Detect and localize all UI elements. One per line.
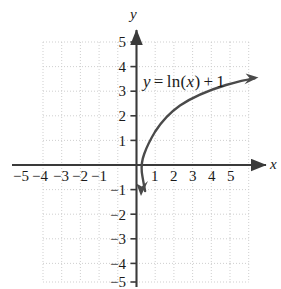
y-tick-label--1: −1 — [104, 183, 126, 198]
x-tick-label-1: 1 — [151, 169, 159, 184]
graph-figure: −5 −4 −3 −2 −1 1 2 3 4 5 5 4 3 2 1 −1 −2… — [0, 0, 281, 289]
y-tick-label-1: 1 — [108, 134, 126, 149]
y-axis-label: y — [130, 7, 137, 22]
equation-plus: + — [203, 72, 213, 91]
equation-function: ln — [167, 72, 181, 91]
x-tick-label-5: 5 — [227, 169, 235, 184]
equation-equals: = — [154, 72, 164, 91]
x-tick-label-2: 2 — [170, 169, 178, 184]
x-tick-label--3: −3 — [53, 169, 69, 184]
y-tick-label-3: 3 — [108, 84, 126, 99]
equation-close-paren: ) — [194, 72, 200, 91]
x-tick-label--1: −1 — [91, 169, 107, 184]
x-tick-label--2: −2 — [72, 169, 88, 184]
x-tick-label-4: 4 — [208, 169, 216, 184]
y-tick-label--5: −5 — [104, 275, 126, 289]
y-tick-label--2: −2 — [104, 208, 126, 223]
equation-annotation: y=ln(x)+1 — [143, 73, 225, 90]
y-tick-label-2: 2 — [108, 109, 126, 124]
y-tick-label-5: 5 — [108, 35, 126, 50]
x-axis-label: x — [270, 157, 277, 172]
equation-lhs: y — [143, 72, 151, 91]
equation-constant: 1 — [216, 72, 225, 91]
curve-arrow-down — [136, 181, 148, 196]
y-tick-label-4: 4 — [108, 60, 126, 75]
y-tick-label--3: −3 — [104, 232, 126, 247]
grid-lines-right — [230, 42, 249, 282]
x-tick-label--5: −5 — [13, 169, 29, 184]
coordinate-plane — [0, 0, 281, 289]
x-tick-label-3: 3 — [189, 169, 197, 184]
x-tick-label--4: −4 — [32, 169, 48, 184]
y-tick-label--4: −4 — [104, 257, 126, 272]
axis-lines — [12, 30, 266, 287]
